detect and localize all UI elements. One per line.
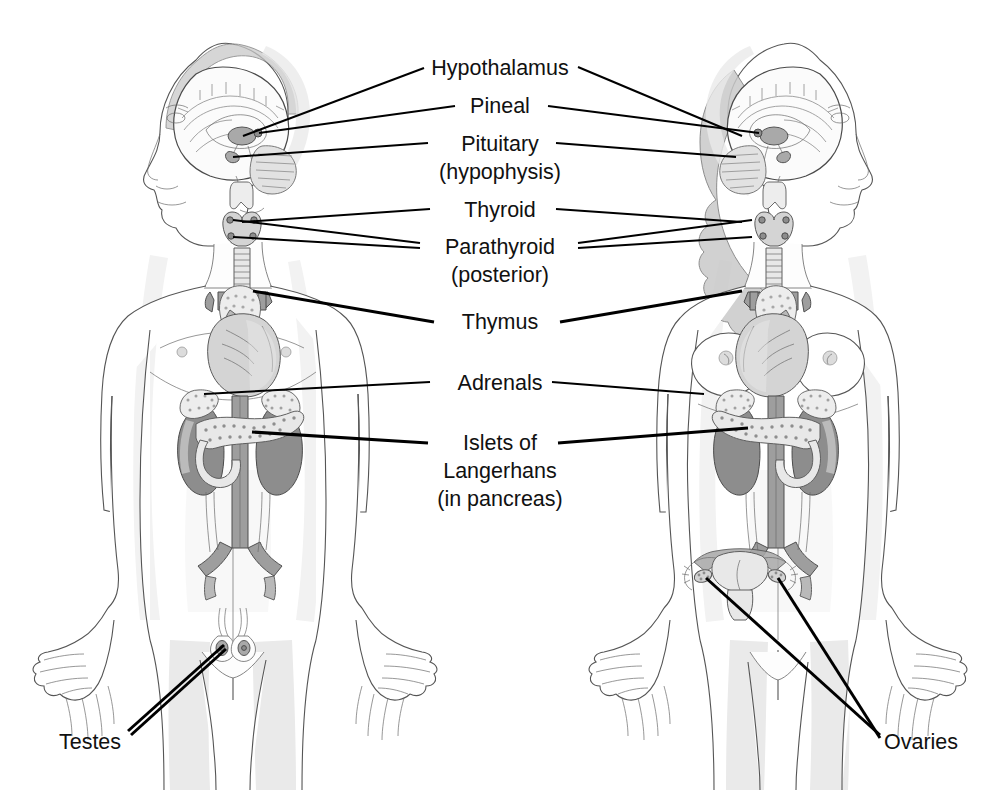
diagram-svg: Hypothalamus Pineal Pituitary (hypophysi… bbox=[0, 0, 984, 797]
label-pituitary: Pituitary bbox=[461, 132, 539, 156]
parathyroid-upper-left-female bbox=[783, 217, 789, 223]
label-pineal: Pineal bbox=[470, 94, 530, 118]
parathyroid-lower-left bbox=[228, 233, 234, 239]
hypothalamus-organ-female bbox=[760, 127, 788, 145]
hypothalamus-organ bbox=[228, 127, 256, 145]
endocrine-diagram-canvas: Hypothalamus Pineal Pituitary (hypophysi… bbox=[0, 0, 984, 797]
label-parathyroid-sub: (posterior) bbox=[451, 263, 549, 287]
label-islets: Islets of bbox=[463, 431, 537, 455]
label-pituitary-sub: (hypophysis) bbox=[439, 160, 561, 184]
parathyroid-upper-right-female bbox=[759, 217, 765, 223]
label-islets-sub2: (in pancreas) bbox=[437, 487, 562, 511]
label-adrenals: Adrenals bbox=[458, 371, 543, 395]
label-thyroid: Thyroid bbox=[464, 198, 536, 222]
label-parathyroid: Parathyroid bbox=[445, 235, 555, 259]
label-islets-sub: Langerhans bbox=[443, 459, 557, 483]
parathyroid-lower-left-female bbox=[782, 233, 788, 239]
label-hypothalamus: Hypothalamus bbox=[431, 56, 568, 80]
label-thymus: Thymus bbox=[462, 310, 538, 334]
parathyroid-lower-right-female bbox=[760, 233, 766, 239]
parathyroid-upper-left bbox=[227, 217, 233, 223]
label-testes: Testes bbox=[59, 730, 121, 754]
label-ovaries: Ovaries bbox=[884, 730, 958, 754]
